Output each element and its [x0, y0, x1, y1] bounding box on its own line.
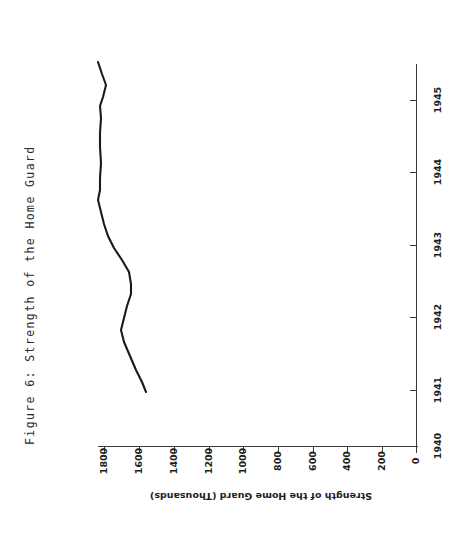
series-svg [0, 0, 461, 538]
figure-page: Figure 6: Strength of the Home Guard 180… [0, 0, 461, 538]
line-chart-plot: 180016001400120010008006004002000 194519… [0, 0, 461, 538]
data-series-line-home-guard-strength [98, 62, 146, 392]
